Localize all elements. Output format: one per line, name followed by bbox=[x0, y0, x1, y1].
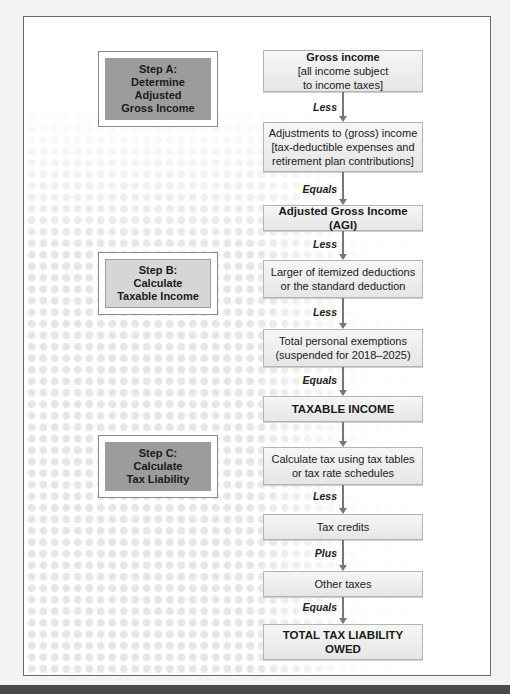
operator-label: Equals bbox=[303, 183, 337, 195]
bottom-bar bbox=[0, 685, 510, 694]
operator-label: Less bbox=[313, 101, 337, 113]
step-b-box: Step B: Calculate Taxable Income bbox=[98, 252, 218, 315]
connector-line bbox=[342, 298, 344, 323]
flow-box-text: Calculate tax using tax tables bbox=[264, 452, 422, 466]
connector-line bbox=[342, 172, 344, 199]
connector-line bbox=[342, 92, 344, 116]
flow-box-total-tax-liability: TOTAL TAX LIABILITY OWED bbox=[263, 624, 423, 660]
step-a-box: Step A: Determine Adjusted Gross Income bbox=[98, 51, 218, 127]
flow-box-text: Adjustments to (gross) income bbox=[264, 126, 422, 140]
flow-box-other-taxes: Other taxes bbox=[263, 571, 423, 597]
flow-box-text: retirement plan contributions] bbox=[264, 154, 422, 168]
flow-box-tax-credits: Tax credits bbox=[263, 514, 423, 540]
flow-box-calculate-tax: Calculate tax using tax tables or tax ra… bbox=[263, 447, 423, 485]
flow-box-deductions: Larger of itemized deductions or the sta… bbox=[263, 260, 423, 298]
flow-box-text: TAXABLE INCOME bbox=[264, 402, 422, 416]
connector-line bbox=[342, 597, 344, 619]
flow-box-text: Larger of itemized deductions bbox=[264, 265, 422, 279]
connector-line bbox=[342, 367, 344, 390]
connector-line bbox=[342, 422, 344, 441]
flow-box-text: (suspended for 2018–2025) bbox=[264, 348, 422, 362]
flow-box-text: Gross income bbox=[264, 50, 422, 64]
connector-line bbox=[342, 231, 344, 254]
operator-label: Plus bbox=[315, 547, 337, 559]
step-a-title: Step A: bbox=[108, 63, 208, 76]
connector-line bbox=[342, 540, 344, 565]
step-b-line2: Calculate bbox=[108, 277, 208, 290]
step-b-title: Step B: bbox=[108, 264, 208, 277]
step-b-label: Step B: Calculate Taxable Income bbox=[105, 259, 211, 308]
flow-box-text: Other taxes bbox=[264, 577, 422, 591]
step-c-line3: Tax Liability bbox=[108, 473, 208, 486]
step-c-title: Step C: bbox=[108, 447, 208, 460]
operator-label: Equals bbox=[303, 374, 337, 386]
flow-box-text: Tax credits bbox=[264, 520, 422, 534]
operator-label: Less bbox=[313, 490, 337, 502]
operator-label: Equals bbox=[303, 601, 337, 613]
connector-line bbox=[342, 485, 344, 508]
step-a-line2: Determine Adjusted bbox=[108, 76, 208, 102]
step-c-label: Step C: Calculate Tax Liability bbox=[105, 442, 211, 491]
flow-box-adjustments: Adjustments to (gross) income [tax-deduc… bbox=[263, 122, 423, 172]
flow-box-text: Adjusted Gross Income (AGI) bbox=[264, 204, 422, 232]
operator-label: Less bbox=[313, 306, 337, 318]
flow-box-text: TOTAL TAX LIABILITY OWED bbox=[264, 628, 422, 656]
flow-box-agi: Adjusted Gross Income (AGI) bbox=[263, 205, 423, 231]
flow-box-text: to income taxes] bbox=[264, 78, 422, 92]
step-b-line3: Taxable Income bbox=[108, 290, 208, 303]
flow-box-gross-income: Gross income [all income subject to inco… bbox=[263, 50, 423, 92]
flow-box-text: [all income subject bbox=[264, 64, 422, 78]
step-c-box: Step C: Calculate Tax Liability bbox=[98, 435, 218, 498]
step-c-line2: Calculate bbox=[108, 460, 208, 473]
flow-box-text: or tax rate schedules bbox=[264, 466, 422, 480]
flow-box-text: Total personal exemptions bbox=[264, 334, 422, 348]
step-a-label: Step A: Determine Adjusted Gross Income bbox=[105, 58, 211, 120]
operator-label: Less bbox=[313, 238, 337, 250]
flow-box-text: or the standard deduction bbox=[264, 279, 422, 293]
flow-box-taxable-income: TAXABLE INCOME bbox=[263, 396, 423, 422]
flow-box-exemptions: Total personal exemptions (suspended for… bbox=[263, 329, 423, 367]
step-a-line3: Gross Income bbox=[108, 102, 208, 115]
flow-box-text: [tax-deductible expenses and bbox=[264, 140, 422, 154]
